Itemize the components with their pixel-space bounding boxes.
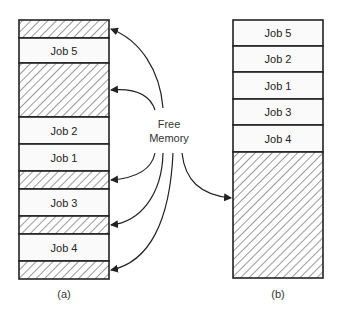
right-job-label: Job 2 [265, 53, 292, 65]
right-job-label: Job 4 [265, 133, 292, 145]
free-memory-label-line2: Memory [149, 132, 189, 144]
right-job-label: Job 1 [265, 80, 292, 92]
free-memory-label-line1: Free [158, 118, 181, 130]
arrow-to-left-free-4 [111, 153, 163, 225]
arrow-to-left-free-1 [111, 29, 163, 108]
left-free-block-2 [19, 63, 109, 117]
right-job-label: Job 5 [265, 27, 292, 39]
left-job-label: Job 2 [51, 125, 78, 137]
arrow-to-right-free [182, 153, 231, 198]
arrow-to-left-free-2 [111, 90, 155, 110]
right-free-block-1 [233, 152, 323, 278]
left-job-label: Job 3 [51, 197, 78, 209]
free-memory-arrows [111, 29, 231, 270]
left-free-block-3 [19, 171, 109, 189]
left-job-label: Job 4 [51, 242, 78, 254]
left-free-block-1 [19, 20, 109, 38]
left-free-block-4 [19, 216, 109, 234]
left-job-label: Job 1 [51, 152, 78, 164]
arrow-to-left-free-3 [111, 153, 155, 180]
caption-b: (b) [271, 288, 284, 300]
left-free-block-5 [19, 261, 109, 279]
memory-compaction-diagram: Job 5Job 2Job 1Job 3Job 4 Job 5Job 2Job … [0, 0, 341, 318]
caption-a: (a) [57, 288, 70, 300]
memory-layout-before: Job 5Job 2Job 1Job 3Job 4 [19, 20, 109, 279]
arrow-to-left-free-5 [111, 153, 173, 270]
left-job-label: Job 5 [51, 45, 78, 57]
right-job-label: Job 3 [265, 106, 292, 118]
memory-layout-after: Job 5Job 2Job 1Job 3Job 4 [233, 20, 323, 278]
